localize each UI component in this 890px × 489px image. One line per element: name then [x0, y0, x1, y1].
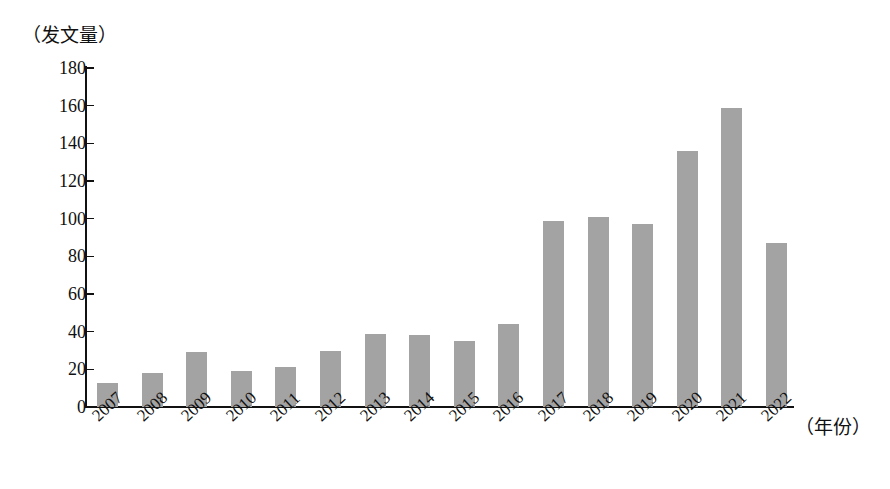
x-axis-tick-label: 2019	[624, 389, 660, 425]
bar	[677, 151, 698, 407]
x-axis-tick-label: 2016	[490, 389, 526, 425]
x-axis-tick-label: 2014	[401, 389, 437, 425]
x-axis-tick-label: 2008	[134, 389, 170, 425]
y-axis-tick	[85, 293, 94, 294]
x-axis-tick-label: 2015	[446, 389, 482, 425]
y-axis-line	[85, 66, 87, 408]
y-axis-tick-label: 40	[40, 323, 86, 341]
bar	[721, 108, 742, 407]
x-axis-tick-label: 2017	[535, 389, 571, 425]
y-axis-tick-label: 20	[40, 360, 86, 378]
y-axis-tick	[85, 218, 94, 219]
y-axis-caption: （发文量）	[22, 26, 117, 45]
y-axis-tick	[85, 369, 94, 370]
y-axis-tick	[85, 256, 94, 257]
bar-chart: （发文量） 020406080100120140160180 200720082…	[0, 0, 890, 489]
x-axis-tick-label: 2012	[312, 389, 348, 425]
x-axis-tick-label: 2013	[357, 389, 393, 425]
y-axis-tick-label: 120	[40, 172, 86, 190]
bar	[632, 224, 653, 407]
x-axis-tick-label: 2007	[89, 389, 125, 425]
bar	[766, 243, 787, 407]
y-axis-tick	[85, 331, 94, 332]
x-axis-tick-label: 2018	[580, 389, 616, 425]
x-axis-tick-label: 2010	[223, 389, 259, 425]
y-axis-tick-label: 100	[40, 210, 86, 228]
x-axis-tick-label: 2011	[267, 389, 303, 424]
x-axis-tick-label: 2009	[178, 389, 214, 425]
y-axis-tick-label: 140	[40, 134, 86, 152]
y-axis-tick-label: 60	[40, 285, 86, 303]
y-axis-tick-label: 80	[40, 247, 86, 265]
y-axis-tick-label: 180	[40, 59, 86, 77]
y-axis-tick	[85, 143, 94, 144]
bar-series	[0, 0, 890, 489]
x-axis-caption: （年份）	[795, 418, 871, 437]
bar	[588, 217, 609, 407]
y-axis-tick	[85, 105, 94, 106]
y-axis-tick-label: 160	[40, 97, 86, 115]
x-axis-tick-label: 2021	[713, 389, 749, 425]
bar	[543, 221, 564, 407]
x-axis-tick-label: 2022	[758, 389, 794, 425]
x-axis-tick-label: 2020	[669, 389, 705, 425]
y-axis-tick	[85, 180, 94, 181]
y-axis-tick-label: 0	[40, 398, 86, 416]
y-axis-tick	[85, 67, 94, 68]
